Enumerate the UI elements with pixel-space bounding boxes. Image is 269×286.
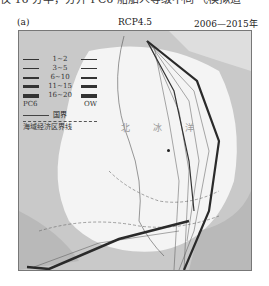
legend-class-label: 3~5 [39, 64, 81, 73]
legend-row: 16~20 [23, 91, 105, 100]
legend-line-ow [81, 94, 97, 98]
legend-line-ow [81, 85, 97, 88]
legend-line-ow [81, 68, 97, 70]
legend-pc6-label: PC6 [23, 100, 38, 109]
legend-class-label: 6~10 [39, 73, 81, 82]
legend-ow-label: OW [84, 100, 97, 109]
legend-class-label: 1~2 [39, 55, 81, 64]
cropped-paper-text: 仅 16 分半，分开 PC6 船舶人等级不同 飞模拟道 [0, 0, 269, 6]
border-line-swatch [23, 115, 49, 116]
legend-eez-boundary: 海域经济区界线 [23, 121, 97, 132]
arctic-route-map: 北 冰 洋 1~2 3~5 6~10 11~15 16~20 P [18, 30, 252, 271]
legend-line-ow [81, 77, 97, 79]
legend-column-heads: PC6 OW [23, 100, 97, 109]
legend-line-pc6 [23, 77, 39, 79]
legend-line-pc6 [23, 94, 39, 98]
legend-line-ow [81, 59, 97, 60]
map-legend: 1~2 3~5 6~10 11~15 16~20 PC6 OW [23, 55, 105, 132]
legend-class-label: 16~20 [39, 91, 81, 100]
arctic-ocean-label: 北 冰 洋 [121, 121, 204, 134]
period-label: 2006—2015年 [194, 17, 258, 30]
legend-row: 11~15 [23, 82, 105, 91]
legend-line-pc6 [23, 59, 39, 60]
legend-row: 1~2 [23, 55, 105, 64]
legend-row: 6~10 [23, 73, 105, 82]
legend-national-border: 国界 [23, 111, 105, 120]
legend-line-pc6 [23, 68, 39, 70]
legend-row: 3~5 [23, 64, 105, 73]
legend-line-pc6 [23, 85, 39, 88]
legend-class-label: 11~15 [39, 82, 81, 91]
national-border-label: 国界 [53, 111, 67, 120]
north-pole-marker [167, 149, 170, 152]
panel-label: (a) [17, 17, 29, 27]
scenario-label: RCP4.5 [118, 17, 152, 27]
